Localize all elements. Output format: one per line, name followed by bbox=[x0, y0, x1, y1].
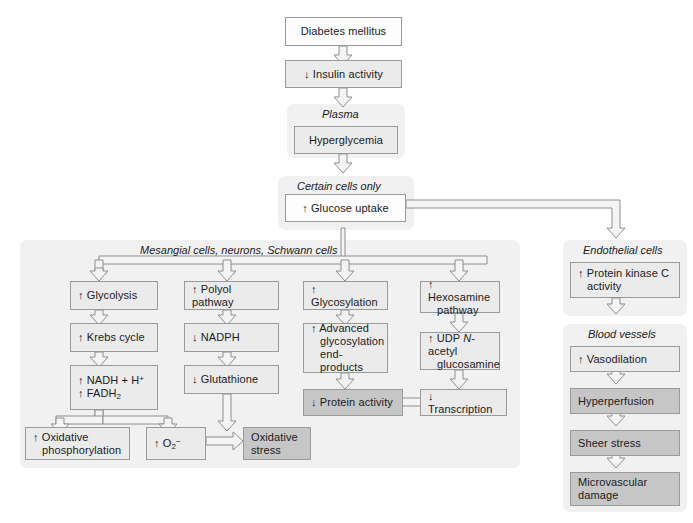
box-nadh-label: ↑ NADH + H+ bbox=[78, 372, 144, 387]
box-hyperperfusion[interactable]: Hyperperfusion bbox=[570, 388, 680, 414]
box-age-line2: glycosylation bbox=[320, 335, 384, 348]
box-pkc-line1: ↑ Protein kinase C bbox=[578, 267, 669, 280]
box-hexosamine-line2: pathway bbox=[437, 304, 479, 317]
box-polyol-pathway[interactable]: ↑ Polyol pathway bbox=[184, 281, 279, 310]
box-transcription[interactable]: ↓ Transcription bbox=[420, 389, 507, 416]
nadh-superscript: + bbox=[139, 374, 144, 383]
superoxide-superscript: − bbox=[176, 437, 181, 446]
box-nadph[interactable]: ↓ NADPH bbox=[184, 323, 279, 352]
box-oxphos-line2: phosphorylation bbox=[42, 444, 121, 457]
box-age-line1: ↑ Advanced bbox=[311, 322, 369, 335]
box-diabetes-mellitus[interactable]: Diabetes mellitus bbox=[285, 17, 402, 46]
box-hyperperfusion-label: Hyperperfusion bbox=[578, 395, 654, 408]
box-udp-line2: glucosamine bbox=[437, 358, 500, 371]
box-protein-kinase-c[interactable]: ↑ Protein kinase C activity bbox=[570, 262, 680, 298]
box-oxidative-stress-line2: stress bbox=[251, 444, 281, 457]
box-insulin-activity[interactable]: ↓ Insulin activity bbox=[285, 60, 402, 88]
box-glycosylation[interactable]: ↑ Glycosylation bbox=[303, 281, 388, 310]
box-nadh-fadh[interactable]: ↑ NADH + H+ ↑ FADH2 bbox=[70, 365, 158, 410]
diagram-canvas: Diabetes mellitus ↓ Insulin activity Pla… bbox=[0, 0, 693, 523]
box-oxidative-stress[interactable]: Oxidative stress bbox=[243, 427, 311, 460]
box-age-products[interactable]: ↑ Advanced glycosylation end-products bbox=[303, 323, 388, 373]
box-microvascular-line1: Microvascular bbox=[578, 476, 647, 489]
box-glycosylation-label: ↑ Glycosylation bbox=[311, 283, 380, 309]
box-hyperglycemia[interactable]: Hyperglycemia bbox=[294, 126, 398, 154]
box-hyperglycemia-label: Hyperglycemia bbox=[309, 134, 383, 147]
box-diabetes-mellitus-label: Diabetes mellitus bbox=[301, 25, 386, 38]
box-nadph-label: ↓ NADPH bbox=[192, 331, 240, 344]
box-glucose-uptake[interactable]: ↑ Glucose uptake bbox=[285, 194, 406, 222]
box-hexosamine-pathway[interactable]: ↑ Hexosamine pathway bbox=[420, 281, 500, 313]
box-polyol-pathway-label: ↑ Polyol pathway bbox=[192, 283, 271, 309]
box-oxidative-phosphorylation[interactable]: ↑ Oxidative phosphorylation bbox=[25, 427, 130, 460]
box-fadh-label: ↑ FADH2 bbox=[78, 387, 121, 403]
caption-plasma: Plasma bbox=[322, 108, 359, 120]
box-age-line3: end-products bbox=[320, 348, 380, 374]
box-glucose-uptake-label: ↑ Glucose uptake bbox=[302, 202, 389, 215]
box-oxphos-line1: ↑ Oxidative bbox=[33, 431, 89, 444]
box-protein-activity-label: ↓ Protein activity bbox=[311, 396, 393, 409]
box-glutathione-label: ↓ Glutathione bbox=[192, 373, 258, 386]
box-krebs-cycle-label: ↑ Krebs cycle bbox=[78, 331, 145, 344]
box-superoxide-label: ↑ O2− bbox=[154, 435, 181, 453]
box-protein-activity[interactable]: ↓ Protein activity bbox=[303, 389, 403, 416]
box-glycolysis-label: ↑ Glycolysis bbox=[78, 289, 137, 302]
box-vasodilation-label: ↑ Vasodilation bbox=[578, 353, 647, 366]
box-sheer-stress[interactable]: Sheer stress bbox=[570, 430, 680, 456]
box-microvascular-line2: damage bbox=[578, 489, 618, 502]
caption-mesangial: Mesangial cells, neurons, Schwann cells bbox=[140, 244, 338, 256]
box-superoxide[interactable]: ↑ O2− bbox=[146, 427, 206, 460]
box-krebs-cycle[interactable]: ↑ Krebs cycle bbox=[70, 323, 158, 352]
box-glycolysis[interactable]: ↑ Glycolysis bbox=[70, 281, 158, 310]
box-vasodilation[interactable]: ↑ Vasodilation bbox=[570, 346, 680, 372]
box-pkc-line2: activity bbox=[587, 280, 621, 293]
caption-certain-cells: Certain cells only bbox=[297, 180, 381, 192]
box-oxidative-stress-line1: Oxidative bbox=[251, 431, 298, 444]
box-sheer-stress-label: Sheer stress bbox=[578, 437, 641, 450]
box-glutathione[interactable]: ↓ Glutathione bbox=[184, 365, 279, 394]
caption-endothelial: Endothelial cells bbox=[583, 244, 663, 256]
box-udp-n-acetyl-glucosamine[interactable]: ↑ UDP N-acetyl glucosamine bbox=[420, 332, 500, 370]
box-insulin-activity-label: ↓ Insulin activity bbox=[304, 68, 383, 81]
fadh-subscript: 2 bbox=[117, 392, 122, 401]
box-hexosamine-line1: ↑ Hexosamine bbox=[428, 278, 492, 304]
box-microvascular-damage[interactable]: Microvascular damage bbox=[570, 472, 680, 506]
box-udp-line1: ↑ UDP N-acetyl bbox=[428, 332, 492, 358]
caption-blood-vessels: Blood vessels bbox=[588, 328, 656, 340]
box-transcription-label: ↓ Transcription bbox=[428, 390, 499, 416]
